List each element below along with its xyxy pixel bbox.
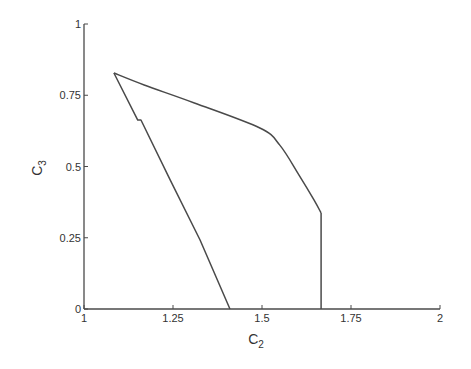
y-tick-label: 1 bbox=[75, 18, 81, 30]
chart-svg: 11.251.51.75200.250.50.751 C2 C3 bbox=[0, 0, 471, 369]
x-tick-label: 1.5 bbox=[254, 312, 269, 324]
x-tick-label: 1.75 bbox=[340, 312, 361, 324]
x-axis-label: C2 bbox=[248, 331, 264, 350]
plot-series bbox=[114, 73, 321, 309]
y-tick-label: 0.5 bbox=[66, 161, 81, 173]
x-tick-label: 1.25 bbox=[162, 312, 183, 324]
axes: 11.251.51.75200.250.50.751 bbox=[60, 18, 443, 324]
series-line bbox=[114, 73, 321, 213]
axis-labels: C2 C3 bbox=[29, 160, 264, 350]
x-tick-label: 2 bbox=[437, 312, 443, 324]
y-axis-label: C3 bbox=[29, 160, 48, 176]
series-line bbox=[114, 73, 230, 309]
y-tick-label: 0 bbox=[75, 303, 81, 315]
x-tick-label: 1 bbox=[81, 312, 87, 324]
y-tick-label: 0.25 bbox=[60, 232, 81, 244]
y-tick-label: 0.75 bbox=[60, 89, 81, 101]
